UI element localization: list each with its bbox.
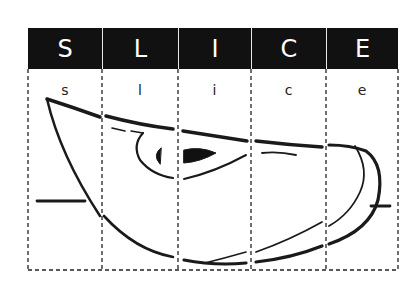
apple-outline — [37, 99, 390, 264]
apple-slice-drawing — [0, 0, 417, 288]
